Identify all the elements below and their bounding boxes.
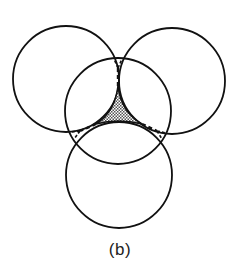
shaded-curved-triangle [96,86,142,124]
circle-bottom [66,122,172,228]
figure-caption: (b) [0,240,240,260]
three-circle-diagram [0,0,240,265]
